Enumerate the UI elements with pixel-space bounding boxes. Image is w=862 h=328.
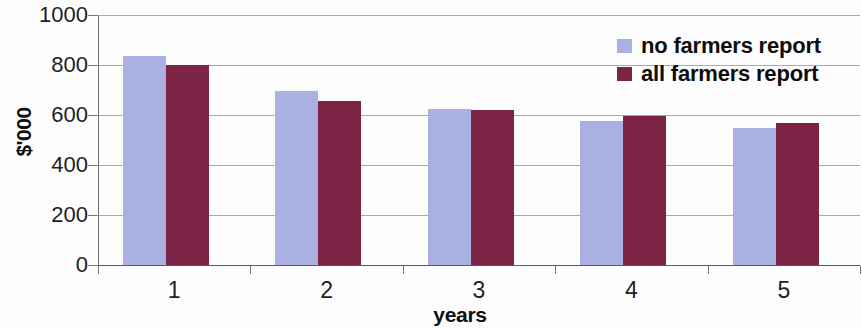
bar-no-farmers-report-year-5 [733,128,776,265]
x-tick-label-3: 3 [403,278,555,302]
bar-all-farmers-report-year-1 [166,65,209,265]
bar-fill [123,56,166,266]
y-tick-label-800: 800 [8,54,88,76]
bar-fill [275,91,318,265]
bar-fill [471,110,514,266]
bar-no-farmers-report-year-4 [580,121,623,265]
bar-chart: 02004006008001000 $'000 12345 years no f… [0,0,862,328]
x-tick-mark-end [860,266,861,274]
x-tick-label-2: 2 [250,278,402,302]
y-tick-mark-1000 [88,15,98,16]
bar-group-3 [403,15,555,265]
legend-swatch-icon [617,39,632,53]
bar-all-farmers-report-year-5 [776,123,819,265]
y-tick-mark-0 [88,265,98,266]
bar-no-farmers-report-year-2 [275,91,318,265]
x-tick-mark-3 [555,266,556,274]
chart-legend: no farmers reportall farmers report [617,32,821,88]
legend-label: all farmers report [641,63,818,85]
legend-label: no farmers report [641,35,821,57]
bar-all-farmers-report-year-2 [318,101,361,266]
x-tick-label-4: 4 [555,278,707,302]
y-tick-label-0: 0 [8,254,88,276]
y-tick-mark-600 [88,115,98,116]
y-tick-mark-400 [88,165,98,166]
bar-fill [776,123,819,265]
y-tick-mark-800 [88,65,98,66]
bar-fill [623,116,666,266]
bar-fill [580,121,623,265]
x-tick-label-5: 5 [708,278,860,302]
bar-fill [733,128,776,265]
x-tick-mark-0 [98,266,99,274]
legend-item-no-farmers-report[interactable]: no farmers report [617,32,821,60]
bar-fill [318,101,361,266]
bar-group-2 [250,15,402,265]
legend-item-all-farmers-report[interactable]: all farmers report [617,60,821,88]
bar-all-farmers-report-year-3 [471,110,514,266]
bar-fill [428,109,471,265]
bar-all-farmers-report-year-4 [623,116,666,266]
bar-no-farmers-report-year-3 [428,109,471,265]
legend-swatch-icon [617,67,632,81]
y-tick-label-1000: 1000 [8,4,88,26]
x-tick-mark-2 [403,266,404,274]
y-tick-label-200: 200 [8,204,88,226]
x-tick-mark-4 [708,266,709,274]
bar-no-farmers-report-year-1 [123,56,166,266]
x-axis-line [98,265,860,266]
x-tick-label-1: 1 [98,278,250,302]
bar-group-1 [98,15,250,265]
y-tick-mark-200 [88,215,98,216]
x-tick-mark-1 [250,266,251,274]
bar-fill [166,65,209,265]
x-axis-title: years [390,303,530,327]
y-axis-title: $'000 [12,97,36,167]
